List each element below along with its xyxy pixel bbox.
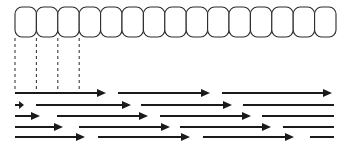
cell-2 <box>36 7 57 37</box>
arrow-row-2 <box>15 101 334 109</box>
arrow-head-2-3 <box>223 101 232 109</box>
cell-1 <box>15 7 36 37</box>
arrow-head-2-1 <box>19 101 24 109</box>
arrow-head-3-3 <box>242 112 251 120</box>
arrow-head-4-1 <box>54 123 63 131</box>
cell-row <box>15 7 336 37</box>
cell-7 <box>143 7 164 37</box>
dashed-guide-lines <box>15 38 79 92</box>
cell-8 <box>165 7 186 37</box>
diagram-canvas <box>0 0 349 144</box>
cell-5 <box>101 7 122 37</box>
arrow-row-4 <box>15 123 334 131</box>
cell-15 <box>315 7 336 37</box>
cell-11 <box>229 7 250 37</box>
cell-10 <box>208 7 229 37</box>
cell-3 <box>58 7 79 37</box>
arrow-row-3 <box>15 112 334 120</box>
cell-13 <box>272 7 293 37</box>
arrow-head-1-3 <box>323 89 332 97</box>
arrow-head-4-3 <box>262 123 271 131</box>
arrow-head-3-1 <box>31 112 40 120</box>
cell-4 <box>79 7 100 37</box>
arrow-head-5-3 <box>285 133 294 141</box>
cell-6 <box>122 7 143 37</box>
staggered-arrow-rows <box>15 89 334 141</box>
arrow-head-4-2 <box>161 123 170 131</box>
arrow-head-1-2 <box>201 89 210 97</box>
cell-12 <box>250 7 271 37</box>
arrow-row-5 <box>15 133 334 141</box>
arrow-head-5-1 <box>76 133 85 141</box>
arrow-row-1 <box>15 89 332 97</box>
arrow-head-3-2 <box>139 112 148 120</box>
arrow-head-1-1 <box>97 89 106 97</box>
arrow-head-2-2 <box>122 101 131 109</box>
cell-14 <box>293 7 314 37</box>
diagram-svg <box>0 0 349 144</box>
cell-9 <box>186 7 207 37</box>
arrow-head-5-2 <box>181 133 190 141</box>
